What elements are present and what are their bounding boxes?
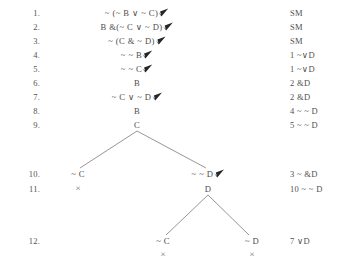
branch-node-text: ~ D xyxy=(245,236,259,246)
checkmark-icon xyxy=(142,50,153,59)
line-number: 2. xyxy=(18,22,40,32)
formula-line: B xyxy=(134,106,140,116)
formula-line: ~ C ∨ ~ D xyxy=(112,92,163,102)
branch-closure-mark: × xyxy=(160,250,165,259)
justification-text: 2 &D xyxy=(290,78,310,88)
formula-text: ~ ~ C xyxy=(121,64,142,74)
formula-line: ~ (C & ~ D) xyxy=(108,36,166,46)
branch-edge xyxy=(80,131,137,168)
branch-closure-mark: × xyxy=(249,250,254,259)
formula-line: B xyxy=(134,78,140,88)
branch-node: ~ C xyxy=(71,169,85,179)
branch-edge xyxy=(166,195,208,235)
justification-text: SM xyxy=(290,8,303,18)
formula-line: ~ (~ B ∨ ~ C) xyxy=(105,8,169,18)
checkmark-icon xyxy=(155,36,166,45)
line-number: 6. xyxy=(18,78,40,88)
checkmark-icon xyxy=(151,92,162,101)
formula-text: ~ C ∨ ~ D xyxy=(112,92,152,102)
branch-edge xyxy=(137,131,206,168)
formula-line: C xyxy=(134,120,140,130)
branch-node: ~ ~ D xyxy=(192,169,225,179)
justification-text: 1 ~∨D xyxy=(290,64,315,74)
justification-text: 2 &D xyxy=(290,92,310,102)
formula-line: ~ ~ B xyxy=(121,50,153,60)
line-number: 10. xyxy=(18,169,40,179)
justification-text: SM xyxy=(290,36,303,46)
line-number: 4. xyxy=(18,50,40,60)
branch-node-text: ~ C xyxy=(71,169,85,179)
branch-node-text: D xyxy=(205,184,212,194)
line-number: 8. xyxy=(18,106,40,116)
branch-node: D xyxy=(205,184,212,194)
formula-line: B &(~ C ∨ ~ D) xyxy=(100,22,173,32)
line-number: 9. xyxy=(18,120,40,130)
line-number: 7. xyxy=(18,92,40,102)
justification-text: 4 ~ ~ D xyxy=(290,106,318,116)
formula-text: C xyxy=(134,120,140,130)
branch-node: ~ D xyxy=(245,236,259,246)
formula-text: ~ (C & ~ D) xyxy=(108,36,155,46)
branch-closure-mark: × xyxy=(75,184,80,193)
justification-text: 3 ~ &D xyxy=(290,169,318,179)
branch-node: ~ C xyxy=(156,236,170,246)
formula-text: B xyxy=(134,78,140,88)
line-number: 12. xyxy=(18,236,40,246)
branch-edge xyxy=(208,195,249,235)
formula-text: B xyxy=(134,106,140,116)
formula-line: ~ ~ C xyxy=(121,64,153,74)
checkmark-icon xyxy=(142,64,153,73)
line-number: 11. xyxy=(18,184,40,194)
justification-text: SM xyxy=(290,22,303,32)
justification-text: 7 ∨D xyxy=(290,236,310,246)
line-number: 3. xyxy=(18,36,40,46)
truth-tree-proof-sheet: 1.2.3.4.5.6.7.8.9.10.11.12. ~ (~ B ∨ ~ C… xyxy=(0,0,349,274)
formula-text: B &(~ C ∨ ~ D) xyxy=(100,22,162,32)
justification-text: 1 ~∨D xyxy=(290,50,315,60)
formula-text: ~ ~ B xyxy=(121,50,142,60)
checkmark-icon xyxy=(158,8,169,17)
branch-node-text: ~ ~ D xyxy=(192,169,214,179)
line-number: 1. xyxy=(18,8,40,18)
justification-text: 10 ~ ~ D xyxy=(290,184,323,194)
checkmark-icon xyxy=(163,22,174,31)
branch-node-text: ~ C xyxy=(156,236,170,246)
checkmark-icon xyxy=(213,169,224,178)
line-number: 5. xyxy=(18,64,40,74)
justification-text: 5 ~ ~ D xyxy=(290,120,318,130)
formula-text: ~ (~ B ∨ ~ C) xyxy=(105,8,158,18)
